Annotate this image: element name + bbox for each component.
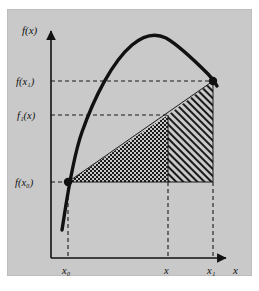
x-tick-label-x1: x₁ (206, 265, 215, 276)
function-plot: f(x) f(x₁) f₁(x) f(x₀) x₀ x x₁ x (0, 0, 259, 291)
x-tick-label-x: x (163, 265, 169, 276)
y-tick-label-f1x: f₁(x) (17, 110, 36, 122)
marker-point-x1 (209, 77, 217, 85)
figure-root: f(x) f(x₁) f₁(x) f(x₀) x₀ x x₁ x (0, 0, 259, 291)
x-axis-label: x (232, 264, 238, 276)
marker-point-x0 (64, 178, 72, 186)
y-tick-label-fx0: f(x₀) (15, 177, 34, 189)
y-tick-label-fx1: f(x₁) (16, 76, 35, 88)
x-tick-label-x0: x₀ (61, 265, 71, 276)
y-axis-label: f(x) (22, 24, 38, 37)
